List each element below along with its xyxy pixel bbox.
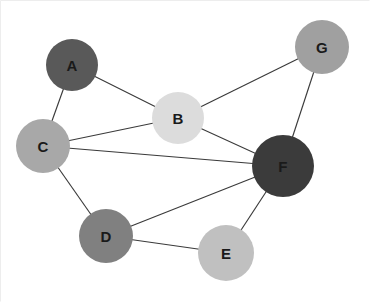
node-layer: ABCDEFG [16, 20, 349, 281]
network-graph: ABCDEFG [0, 0, 370, 302]
node-c[interactable]: C [16, 119, 70, 173]
node-e[interactable]: E [198, 225, 254, 281]
node-label-g: G [316, 39, 328, 56]
node-label-b: B [172, 110, 183, 127]
node-b[interactable]: B [152, 92, 204, 144]
graph-canvas: ABCDEFG [0, 0, 370, 302]
node-label-f: F [278, 158, 287, 175]
node-d[interactable]: D [79, 209, 133, 263]
node-a[interactable]: A [46, 39, 98, 91]
node-label-d: D [100, 228, 111, 245]
node-g[interactable]: G [295, 20, 349, 74]
node-label-e: E [221, 245, 231, 262]
node-f[interactable]: F [252, 135, 314, 197]
node-label-c: C [37, 138, 48, 155]
node-label-a: A [66, 57, 77, 74]
